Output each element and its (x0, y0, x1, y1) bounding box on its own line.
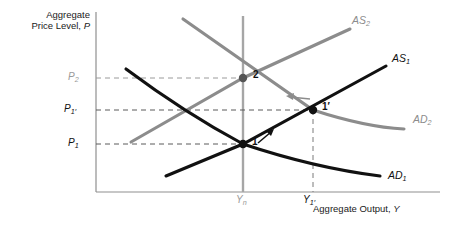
y-tick-p1prime-mark: ′ (75, 107, 76, 116)
curve-as2 (131, 29, 350, 142)
x-tick-yn: Yn (236, 194, 247, 207)
y-tick-p2-sub: 2 (75, 75, 79, 84)
curve-label-as1: AS1 (392, 52, 410, 66)
y-tick-p1-base: P (68, 137, 75, 148)
y-axis-title-line2-text: Price Level, (31, 20, 83, 31)
x-tick-y1prime: Y1′ (303, 194, 315, 208)
point-marker-1prime (309, 106, 317, 114)
x-tick-yn-sub: n (243, 198, 247, 207)
y-tick-p2-base: P (68, 71, 75, 82)
point-marker-2 (239, 74, 247, 82)
curve-label-as1-sub: 1 (406, 57, 410, 66)
curve-label-as2: AS2 (352, 14, 370, 28)
y-axis-title-variable: P (84, 20, 90, 31)
curve-label-ad1-sub: 1 (403, 174, 407, 183)
y-tick-p1prime-base: P (64, 103, 71, 114)
x-axis-title-text: Aggregate Output, (313, 203, 393, 214)
point-label-1prime: 1′ (322, 101, 330, 113)
point-label-2: 2 (253, 69, 259, 81)
y-axis-title-line2: Price Level, P (18, 21, 90, 32)
y-axis-title: Aggregate Price Level, P (18, 10, 90, 32)
y-tick-p2: P2 (68, 71, 79, 84)
curve-label-ad2-base: AD (413, 113, 428, 125)
curve-label-as2-sub: 2 (366, 19, 370, 28)
y-tick-p1-sub: 1 (75, 141, 79, 150)
curve-label-ad1: AD1 (388, 169, 407, 183)
point-marker-1 (239, 140, 247, 148)
curve-label-ad2-sub: 2 (428, 118, 432, 127)
curve-label-ad2: AD2 (413, 113, 432, 127)
y-tick-p1: P1 (68, 137, 79, 150)
x-tick-y1prime-base: Y (303, 194, 310, 205)
curve-label-as2-base: AS (352, 14, 366, 26)
y-tick-p1prime: P1′ (64, 103, 76, 117)
curve-label-as1-base: AS (392, 52, 406, 64)
x-tick-y1prime-mark: ′ (314, 198, 315, 207)
x-axis-title: Aggregate Output, Y (313, 204, 400, 215)
x-axis-title-variable: Y (393, 203, 399, 214)
point-label-1: 1 (252, 136, 258, 148)
x-tick-yn-base: Y (236, 194, 243, 205)
curve-label-ad1-base: AD (388, 169, 403, 181)
ad-as-diagram: Aggregate Price Level, P Aggregate Outpu… (0, 0, 458, 231)
